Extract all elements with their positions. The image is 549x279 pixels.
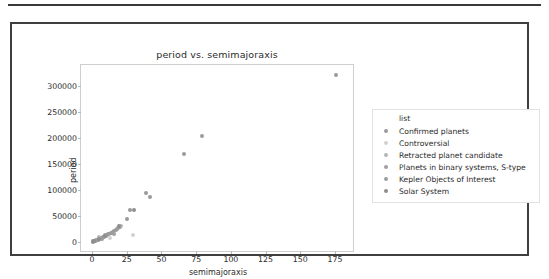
y-tick-label: 150000 <box>47 159 77 168</box>
top-divider-rule <box>8 4 541 6</box>
y-tick-mark <box>78 164 81 165</box>
y-tick-label: 300000 <box>47 81 77 90</box>
legend-entry-label: Planets in binary systems, S-type <box>399 163 526 172</box>
x-tick-mark <box>127 251 128 254</box>
chart-title: period vs. semimajoraxis <box>80 49 354 60</box>
legend-entry[interactable]: Controversial <box>379 137 533 149</box>
legend-entry-label: Solar System <box>399 187 449 196</box>
x-tick-label: 125 <box>258 255 273 264</box>
scatter-point <box>148 195 152 199</box>
scatter-point <box>200 134 204 138</box>
scatter-point <box>131 233 135 237</box>
x-tick-label: 175 <box>328 255 343 264</box>
scatter-point <box>108 236 112 240</box>
y-tick-mark <box>78 190 81 191</box>
x-tick-label: 150 <box>293 255 308 264</box>
legend-entries: Confirmed planetsControversialRetracted … <box>379 125 533 197</box>
x-tick-label: 25 <box>122 255 132 264</box>
x-tick-mark <box>231 251 232 254</box>
legend-entry-label: Kepler Objects of Interest <box>399 175 496 184</box>
y-tick-mark <box>78 242 81 243</box>
x-tick-label: 50 <box>157 255 167 264</box>
scatter-point <box>97 237 101 241</box>
legend-entry[interactable]: Solar System <box>379 185 533 197</box>
x-tick-mark <box>300 251 301 254</box>
y-tick-label: 250000 <box>47 107 77 116</box>
legend-marker-icon <box>379 165 393 169</box>
y-tick-mark <box>78 86 81 87</box>
chart-legend: list Confirmed planetsControversialRetra… <box>372 109 540 203</box>
legend-marker-icon <box>379 153 393 157</box>
x-tick-mark <box>161 251 162 254</box>
x-tick-label: 75 <box>191 255 201 264</box>
y-tick-label: 100000 <box>47 185 77 194</box>
scatter-point <box>103 234 107 238</box>
x-tick-mark <box>335 251 336 254</box>
scatter-point <box>144 191 148 195</box>
scatter-point <box>112 232 116 236</box>
scatter-point <box>182 152 186 156</box>
scatter-point <box>125 217 129 221</box>
figure-frame: period vs. semimajoraxis period semimajo… <box>10 22 529 256</box>
legend-entry-label: Retracted planet candidate <box>399 151 503 160</box>
y-tick-label: 0 <box>72 237 77 246</box>
y-tick-mark <box>78 112 81 113</box>
y-tick-label: 50000 <box>52 211 77 220</box>
legend-entry[interactable]: Confirmed planets <box>379 125 533 137</box>
legend-entry-label: Controversial <box>399 139 449 148</box>
x-tick-mark <box>92 251 93 254</box>
scatter-point <box>334 73 338 77</box>
y-tick-mark <box>78 138 81 139</box>
legend-entry[interactable]: Retracted planet candidate <box>379 149 533 161</box>
legend-marker-icon <box>379 141 393 145</box>
legend-marker-icon <box>379 189 393 193</box>
legend-entry[interactable]: Planets in binary systems, S-type <box>379 161 533 173</box>
x-tick-label: 0 <box>90 255 95 264</box>
x-tick-mark <box>196 251 197 254</box>
x-tick-label: 100 <box>223 255 238 264</box>
y-tick-label: 200000 <box>47 133 77 142</box>
y-tick-mark <box>78 216 81 217</box>
legend-entry-label: Confirmed planets <box>399 127 469 136</box>
scatter-point <box>117 224 121 228</box>
scatter-point <box>132 208 136 212</box>
scatter-plot-area: period semimajoraxis 0500001000001500002… <box>80 64 354 252</box>
legend-marker-icon <box>379 129 393 133</box>
x-tick-mark <box>266 251 267 254</box>
legend-title: list <box>399 114 533 123</box>
scatter-point <box>92 239 96 243</box>
legend-marker-icon <box>379 177 393 181</box>
x-axis-label: semimajoraxis <box>81 268 355 277</box>
legend-entry[interactable]: Kepler Objects of Interest <box>379 173 533 185</box>
